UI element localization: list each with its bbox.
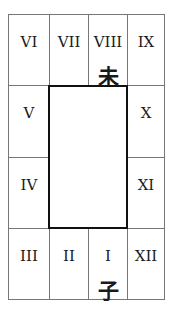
cell-ii: II	[49, 228, 89, 300]
cell-iii: III	[8, 228, 50, 300]
cell-xii: XII	[127, 228, 165, 300]
cell-i: I 子	[88, 228, 128, 300]
numeral-label: II	[50, 247, 88, 265]
center-box	[48, 85, 128, 229]
numeral-label: V	[9, 104, 49, 122]
numeral-label: I	[89, 247, 127, 265]
cell-vi: VI	[8, 14, 50, 86]
numeral-label: IX	[128, 33, 164, 51]
cell-viii: VIII 未	[88, 14, 128, 86]
numeral-label: VI	[9, 33, 49, 51]
cell-ix: IX	[127, 14, 165, 86]
branch-character: 子	[89, 274, 127, 304]
cell-v: V	[8, 85, 50, 158]
numeral-label: X	[128, 104, 164, 122]
cell-x: X	[127, 85, 165, 158]
numeral-label: III	[9, 247, 49, 265]
numeral-label: IV	[9, 176, 49, 194]
numeral-label: VIII	[89, 33, 127, 51]
cell-iv: IV	[8, 157, 50, 229]
numeral-label: XII	[128, 247, 164, 265]
cell-vii: VII	[49, 14, 89, 86]
cell-xi: XI	[127, 157, 165, 229]
numeral-label: XI	[128, 176, 164, 194]
numeral-label: VII	[50, 33, 88, 51]
